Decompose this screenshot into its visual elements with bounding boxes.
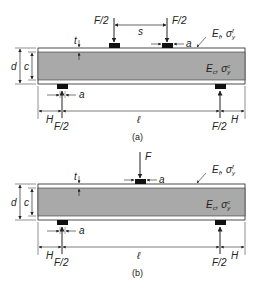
overhang-label-right-a: H	[231, 114, 239, 125]
overhang-label-left-b: H	[46, 250, 54, 261]
support-pad-left-b	[57, 220, 68, 225]
total-thickness-label-b: d	[11, 197, 17, 208]
overhang-label-right-b: H	[231, 250, 239, 261]
support-label-right-b: F/2	[212, 257, 227, 268]
face-thickness-label-a: t	[74, 35, 78, 46]
support-pad-right-b	[215, 220, 226, 225]
load-pad-right-a	[162, 43, 173, 48]
face-material-label-a: Ef, σyf	[212, 28, 236, 40]
pad-width-label-a-top: a	[186, 38, 192, 49]
figure-b-three-point-bend: F a Ef, σyf Ec, σyc t d c a F/2 F/2	[10, 151, 245, 278]
core-material-label-a: Ec, σyc	[206, 63, 231, 75]
load-pad-center-b	[135, 179, 146, 184]
face-material-label-b: Ef, σyf	[212, 164, 236, 176]
caption-b: (b)	[132, 268, 143, 278]
face-leader-b	[197, 173, 206, 183]
beam-core-a	[38, 52, 245, 80]
spacing-label-a: s	[138, 26, 143, 37]
core-material-label-b: Ec, σyc	[206, 199, 231, 211]
pad-width-label-b-top: a	[159, 174, 165, 185]
face-thickness-label-b: t	[74, 171, 78, 182]
beam-core-b	[38, 188, 245, 216]
load-label-right-a: F/2	[172, 15, 187, 26]
caption-a: (a)	[132, 132, 143, 142]
support-pad-right-a	[215, 84, 226, 89]
load-label-left-a: F/2	[94, 15, 109, 26]
support-label-right-a: F/2	[212, 121, 227, 132]
overhang-label-left-a: H	[46, 114, 54, 125]
load-label-center-b: F	[145, 151, 152, 162]
span-label-b: ℓ	[136, 250, 141, 261]
figure-a-four-point-bend: F/2 F/2 s a Ef, σyf Ec, σyc t d c	[10, 15, 245, 142]
support-pad-left-a	[57, 84, 68, 89]
face-leader-a	[197, 37, 206, 47]
support-label-left-a: F/2	[54, 121, 69, 132]
pad-width-label-b-bottom: a	[79, 225, 85, 236]
span-label-a: ℓ	[136, 114, 141, 125]
support-label-left-b: F/2	[54, 257, 69, 268]
core-thickness-label-a: c	[24, 61, 29, 72]
pad-width-label-a-bottom: a	[79, 89, 85, 100]
core-thickness-label-b: c	[24, 197, 29, 208]
load-pad-left-a	[109, 43, 120, 48]
total-thickness-label-a: d	[11, 61, 17, 72]
sandwich-beam-diagram: F/2 F/2 s a Ef, σyf Ec, σyc t d c	[0, 0, 259, 296]
